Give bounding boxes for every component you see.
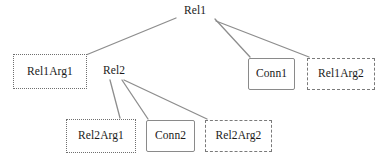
edge-rel2-to-rel2arg1 — [110, 80, 120, 118]
node-rel1[interactable]: Rel1 — [178, 3, 212, 19]
node-label-rel1arg1: Rel1Arg1 — [27, 66, 73, 78]
node-label-rel1: Rel1 — [184, 5, 206, 17]
node-rel1arg1[interactable]: Rel1Arg1 — [13, 54, 87, 89]
node-rel2arg2[interactable]: Rel2Arg2 — [205, 120, 272, 152]
edge-rel1-to-rel1arg1 — [86, 18, 176, 55]
node-label-rel2arg1: Rel2Arg1 — [78, 130, 124, 142]
relation-tree-diagram: Rel1Rel1Arg1Rel2Conn1Rel1Arg2Rel2Arg1Con… — [0, 0, 382, 162]
edge-rel2-to-rel2arg2 — [124, 80, 207, 119]
node-rel2arg1[interactable]: Rel2Arg1 — [66, 119, 136, 153]
node-rel2[interactable]: Rel2 — [96, 63, 132, 79]
node-rel1arg2[interactable]: Rel1Arg2 — [307, 58, 375, 90]
node-label-rel2arg2: Rel2Arg2 — [216, 130, 262, 142]
node-label-rel2: Rel2 — [103, 65, 125, 77]
node-label-conn1: Conn1 — [256, 68, 287, 80]
edge-rel1-to-conn1 — [215, 19, 250, 57]
node-label-rel1arg2: Rel1Arg2 — [318, 68, 364, 80]
node-conn1[interactable]: Conn1 — [248, 58, 295, 90]
edge-rel1-to-rel1arg2 — [216, 21, 309, 57]
node-label-conn2: Conn2 — [155, 130, 186, 142]
node-conn2[interactable]: Conn2 — [146, 120, 195, 152]
